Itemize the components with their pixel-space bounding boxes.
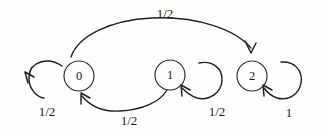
self-loop-state-1: 1/2	[181, 62, 225, 118]
edge-label-0-to-2: 1/2	[157, 6, 174, 21]
edge-label-1-to-0: 1/2	[121, 113, 138, 128]
edge-1-to-0: 1/2	[81, 90, 167, 128]
self-loop-state-0: 1/2	[25, 61, 62, 118]
self-loop-state-0-path	[29, 61, 62, 98]
edge-label-self-loop-0: 1/2	[39, 104, 56, 119]
self-loop-state-2: 1	[263, 62, 301, 120]
edge-label-self-loop-1: 1/2	[209, 104, 226, 119]
edge-0-to-2-path	[71, 18, 251, 57]
state-node-0[interactable]: 0	[64, 61, 94, 91]
edge-label-self-loop-2: 1	[286, 105, 293, 120]
state-node-2[interactable]: 2	[237, 61, 267, 91]
state-node-1-label: 1	[167, 68, 173, 82]
state-node-2-label: 2	[249, 69, 255, 83]
self-loop-state-1-path	[182, 62, 222, 98]
state-node-0-label: 0	[76, 69, 82, 83]
self-loop-state-2-path	[264, 62, 301, 99]
edge-0-to-2: 1/2	[71, 6, 256, 58]
markov-chain-diagram: 1/2 1/2 1/2 1/2 1 0	[0, 0, 321, 132]
diagram-canvas: 1/2 1/2 1/2 1/2 1 0	[0, 0, 321, 132]
state-node-1[interactable]: 1	[155, 60, 185, 90]
edge-1-to-0-path	[82, 90, 167, 111]
